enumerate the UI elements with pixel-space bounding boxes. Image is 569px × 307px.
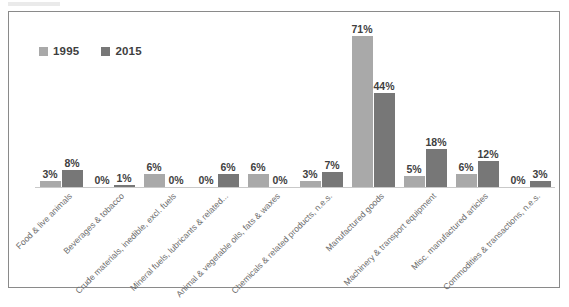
bar-value-label: 3% xyxy=(302,168,317,180)
bar[interactable] xyxy=(374,93,395,187)
bar-slot: 3% xyxy=(300,36,321,187)
bar-value-label: 7% xyxy=(324,159,339,171)
bar-pair: 0%1% xyxy=(87,36,139,187)
bar-slot: 8% xyxy=(62,36,83,187)
bar-value-label: 3% xyxy=(42,168,57,180)
bar-value-label: 71% xyxy=(351,23,372,35)
x-axis-label: Machinery & transport equipment xyxy=(341,191,438,288)
bar-slot: 0% xyxy=(270,36,291,187)
bar[interactable] xyxy=(530,181,551,187)
bar[interactable] xyxy=(352,36,373,187)
bar-value-label: 1% xyxy=(116,172,131,184)
bar-slot: 0% xyxy=(166,36,187,187)
bar-pair: 6%12% xyxy=(451,36,503,187)
bar[interactable] xyxy=(114,185,135,187)
bar-value-label: 0% xyxy=(510,174,525,186)
x-axis-label: Food & live animals xyxy=(14,191,74,251)
page-scan-artifact xyxy=(0,0,569,10)
bar-slot: 3% xyxy=(530,36,551,187)
bar[interactable] xyxy=(218,174,239,187)
bar-pair: 0%3% xyxy=(503,36,555,187)
bar-group: 6%0% xyxy=(243,36,295,187)
bar-value-label: 6% xyxy=(220,161,235,173)
bar-value-label: 44% xyxy=(373,80,394,92)
bar-pair: 0%6% xyxy=(191,36,243,187)
bar[interactable] xyxy=(62,170,83,187)
bar-slot: 12% xyxy=(478,36,499,187)
bar[interactable] xyxy=(144,174,165,187)
bar[interactable] xyxy=(404,176,425,187)
bar[interactable] xyxy=(456,174,477,187)
bar-pair: 6%0% xyxy=(139,36,191,187)
bar-pair: 5%18% xyxy=(399,36,451,187)
bar-group: 0%3% xyxy=(503,36,555,187)
bar[interactable] xyxy=(322,172,343,187)
bar-group: 5%18% xyxy=(399,36,451,187)
bar-group: 0%6% xyxy=(191,36,243,187)
bar-pair: 3%8% xyxy=(35,36,87,187)
x-axis-label: Animal & vegetable oils, fats & waxes xyxy=(174,191,282,299)
bar-slot: 0% xyxy=(92,36,113,187)
bar-slot: 6% xyxy=(248,36,269,187)
bar-value-label: 6% xyxy=(458,161,473,173)
bar-slot: 44% xyxy=(374,36,395,187)
bar[interactable] xyxy=(300,181,321,187)
bar-value-label: 0% xyxy=(198,174,213,186)
bar-slot: 6% xyxy=(456,36,477,187)
bar-pair: 71%44% xyxy=(347,36,399,187)
bar[interactable] xyxy=(478,161,499,187)
x-axis-label: Chemicals & related products, n.e.s. xyxy=(229,191,334,296)
bar-value-label: 6% xyxy=(250,161,265,173)
bar-slot: 5% xyxy=(404,36,425,187)
bar-slot: 6% xyxy=(218,36,239,187)
bar-value-label: 0% xyxy=(272,174,287,186)
bar-value-label: 6% xyxy=(146,161,161,173)
bar-group: 3%8% xyxy=(35,36,87,187)
bar-slot: 7% xyxy=(322,36,343,187)
bar-group: 71%44% xyxy=(347,36,399,187)
bar-value-label: 18% xyxy=(425,136,446,148)
x-axis-labels: Food & live animalsBeverages & tobaccoCr… xyxy=(35,189,555,297)
bar-value-label: 12% xyxy=(477,148,498,160)
plot-area: 3%8%0%1%6%0%0%6%6%0%3%7%71%44%5%18%6%12%… xyxy=(35,36,555,188)
bar-value-label: 0% xyxy=(94,174,109,186)
bar-slot: 1% xyxy=(114,36,135,187)
x-axis-label: Crude materials, inedible, excl. fuels xyxy=(73,191,178,296)
bar-group: 6%12% xyxy=(451,36,503,187)
chart-frame: 1995 2015 3%8%0%1%6%0%0%6%6%0%3%7%71%44%… xyxy=(8,11,560,288)
bar-slot: 3% xyxy=(40,36,61,187)
bar-slot: 6% xyxy=(144,36,165,187)
bar[interactable] xyxy=(426,149,447,187)
bar-pair: 3%7% xyxy=(295,36,347,187)
x-axis-label: Mineral fuels, lubricants & related... xyxy=(128,191,230,293)
bar-group: 6%0% xyxy=(139,36,191,187)
bar-group: 3%7% xyxy=(295,36,347,187)
bar-slot: 18% xyxy=(426,36,447,187)
x-axis-label: Commodities & transactions, n.e.s. xyxy=(441,191,542,292)
bar[interactable] xyxy=(40,181,61,187)
bar[interactable] xyxy=(248,174,269,187)
bar-value-label: 8% xyxy=(64,157,79,169)
bar-slot: 71% xyxy=(352,36,373,187)
bar-group: 0%1% xyxy=(87,36,139,187)
x-axis-baseline xyxy=(35,187,555,188)
bar-value-label: 0% xyxy=(168,174,183,186)
bar-value-label: 3% xyxy=(532,168,547,180)
bar-value-label: 5% xyxy=(406,163,421,175)
scan-smudge xyxy=(8,2,60,6)
bar-slot: 0% xyxy=(508,36,529,187)
bar-pair: 6%0% xyxy=(243,36,295,187)
bar-slot: 0% xyxy=(196,36,217,187)
